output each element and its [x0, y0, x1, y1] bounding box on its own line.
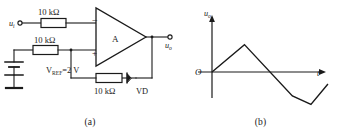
x-axis-label: t: [317, 70, 319, 78]
resistor-reference-label: 10 kΩ: [34, 36, 55, 45]
resistor-feedback-label: 10 kΩ: [94, 87, 115, 96]
x-axis-arrow: [319, 69, 326, 75]
caption-panel-b: (b): [180, 117, 341, 127]
caption-panel-a: (a): [0, 117, 180, 127]
input-terminal-node: [18, 21, 22, 25]
y-axis-label: uo: [204, 10, 211, 18]
origin-label: O: [195, 68, 202, 77]
resistor-input-label: 10 kΩ: [38, 8, 59, 17]
diode-label: VD: [136, 88, 148, 96]
noninverting-junction-dot: [70, 49, 73, 52]
amplifier-label: A: [112, 35, 119, 44]
circuit-panel: ui uo 10 kΩ 10 kΩ 10 kΩ A − + VREF=2 V V…: [0, 0, 180, 133]
noninverting-input-label: +: [92, 49, 97, 58]
opamp-triangle: [96, 8, 146, 66]
inverting-input-label: −: [92, 16, 98, 26]
resistor-reference-body: [33, 46, 58, 55]
circuit-schematic: [0, 0, 180, 110]
output-terminal-label: uo: [165, 42, 172, 50]
waveform-trace: [212, 45, 328, 105]
output-terminal-node: [168, 35, 172, 39]
reference-source-label: VREF=2 V: [46, 67, 79, 75]
resistor-input-body: [41, 19, 66, 28]
input-terminal-label: ui: [9, 20, 15, 28]
resistor-feedback-body: [96, 74, 122, 83]
figure-root: ui uo 10 kΩ 10 kΩ 10 kΩ A − + VREF=2 V V…: [0, 0, 341, 133]
output-junction-dot: [151, 36, 154, 39]
waveform-panel: uo t O (b): [180, 0, 341, 133]
